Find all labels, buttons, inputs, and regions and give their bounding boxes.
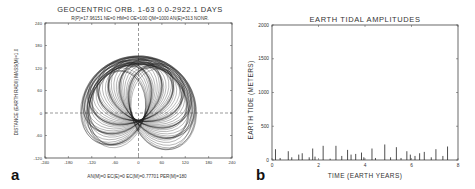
orbit-plot-ylabel: DISTANCE (EARTH RADII) MASS(M)=1.0	[14, 48, 19, 135]
panel-label-a: a	[11, 166, 19, 183]
svg-text:180: 180	[35, 43, 43, 48]
orbit-plot-title: GEOCENTRIC ORB. 1-63 0.0-2922.1 DAYS	[57, 5, 222, 14]
svg-text:60: 60	[37, 88, 42, 93]
svg-text:-120: -120	[34, 156, 43, 161]
svg-text:240: 240	[35, 21, 43, 26]
svg-text:120: 120	[182, 160, 190, 165]
panel-label-b: b	[256, 166, 265, 183]
orbit-plot: GEOCENTRIC ORB. 1-63 0.0-2922.1 DAYS R(P…	[0, 0, 240, 189]
svg-text:8: 8	[457, 163, 460, 168]
svg-text:500: 500	[261, 124, 269, 129]
orbit-traces	[67, 41, 211, 157]
svg-text:2000: 2000	[258, 23, 269, 28]
tidal-plot-title: EARTH TIDAL AMPLITUDES	[309, 15, 420, 24]
tidal-plot-xlabel: TIME (EARTH YEARS)	[328, 172, 403, 180]
svg-text:-60: -60	[36, 133, 43, 138]
svg-text:0: 0	[271, 163, 274, 168]
tidal-plot: EARTH TIDAL AMPLITUDES EARTH TIDE (METER…	[240, 0, 475, 189]
svg-text:0: 0	[266, 158, 269, 163]
orbit-plot-frame: -240-180-120-60060120180240240180120600-…	[34, 21, 237, 166]
svg-text:-120: -120	[88, 160, 97, 165]
svg-text:2: 2	[317, 163, 320, 168]
svg-text:4: 4	[364, 163, 367, 168]
tidal-spikes	[275, 144, 447, 160]
orbit-plot-caption: AN(M)=0 EC(E)=0 EC(M)=0.77701 PER(M)=180	[87, 174, 187, 179]
svg-text:120: 120	[35, 66, 43, 71]
svg-text:0: 0	[40, 111, 43, 116]
svg-text:1000: 1000	[258, 90, 269, 95]
svg-text:6: 6	[410, 163, 413, 168]
svg-text:60: 60	[160, 160, 165, 165]
svg-text:-240: -240	[41, 160, 50, 165]
svg-text:-180: -180	[64, 160, 73, 165]
orbit-plot-subtitle: R(P)=17.96151 NE=0 HM=0 OE=100 QM=1000 A…	[71, 16, 209, 21]
svg-text:-60: -60	[112, 160, 119, 165]
svg-text:240: 240	[229, 160, 237, 165]
svg-text:180: 180	[205, 160, 213, 165]
svg-text:0: 0	[137, 160, 140, 165]
tidal-plot-ylabel: EARTH TIDE (METERS)	[247, 60, 255, 139]
svg-text:1500: 1500	[258, 56, 269, 61]
tidal-plot-frame: 024680500100015002000	[258, 23, 459, 168]
